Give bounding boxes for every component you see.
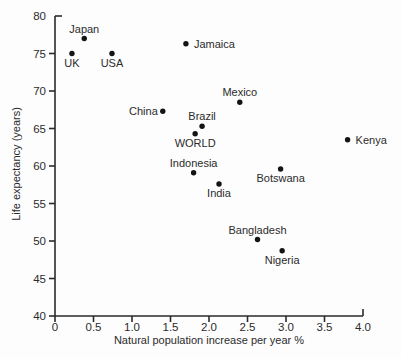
data-point-label: Japan [69, 23, 99, 35]
data-point [183, 41, 188, 46]
y-axis-label: Life expectancy (years) [10, 107, 22, 221]
data-point-label: Mexico [222, 86, 257, 98]
data-point [278, 166, 283, 171]
data-point-label: Botswana [256, 172, 305, 184]
data-point [82, 36, 87, 41]
data-point [192, 131, 197, 136]
data-point-label: USA [101, 57, 124, 69]
data-point-label: Bangladesh [228, 224, 286, 236]
data-point-label: India [207, 187, 232, 199]
x-tick-label: 3.0 [278, 321, 294, 333]
data-point [191, 170, 196, 175]
x-tick-label: 3.5 [317, 321, 333, 333]
data-points: JapanUKUSAJamaicaMexicoChinaBrazilWORLDK… [64, 23, 387, 266]
tick-labels: 40455055606570758000.51.01.52.02.53.03.5… [33, 10, 371, 333]
data-point-label: Indonesia [170, 157, 219, 169]
scatter-plot: 40455055606570758000.51.01.52.02.53.03.5… [0, 0, 401, 359]
x-axis-label: Natural population increase per year % [114, 334, 304, 346]
x-tick-label: 1.5 [163, 321, 179, 333]
x-tick-label: 1.0 [124, 321, 140, 333]
data-point-label: Jamaica [194, 38, 236, 50]
y-tick-label: 70 [33, 85, 46, 97]
data-point-label: WORLD [175, 137, 216, 149]
data-point [109, 51, 114, 56]
data-point-label: Kenya [356, 134, 388, 146]
y-tick-label: 40 [33, 310, 46, 322]
data-point [216, 181, 221, 186]
data-point [237, 100, 242, 105]
data-point [345, 137, 350, 142]
y-tick-label: 55 [33, 198, 46, 210]
axes [49, 16, 363, 322]
data-point-label: UK [64, 57, 80, 69]
x-tick-label: 2.5 [240, 321, 256, 333]
y-tick-label: 75 [33, 48, 46, 60]
data-point-label: China [129, 105, 159, 117]
y-tick-label: 65 [33, 123, 46, 135]
x-tick-label: 0.5 [86, 321, 102, 333]
x-tick-label: 4.0 [355, 321, 371, 333]
scatter-figure: 40455055606570758000.51.01.52.02.53.03.5… [0, 0, 401, 359]
y-tick-label: 80 [33, 10, 46, 22]
data-point-label: Nigeria [265, 254, 301, 266]
data-point [255, 237, 260, 242]
data-point [279, 248, 284, 253]
y-tick-label: 50 [33, 235, 46, 247]
y-tick-label: 45 [33, 273, 46, 285]
y-tick-label: 60 [33, 160, 46, 172]
x-tick-label: 2.0 [201, 321, 217, 333]
data-point [69, 51, 74, 56]
data-point-label: Brazil [188, 110, 216, 122]
data-point [160, 109, 165, 114]
data-point [199, 124, 204, 129]
x-tick-label: 0 [52, 321, 58, 333]
